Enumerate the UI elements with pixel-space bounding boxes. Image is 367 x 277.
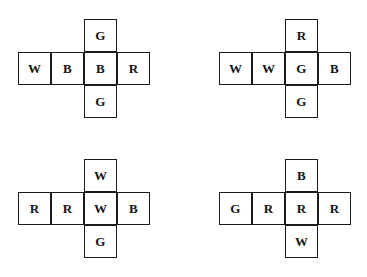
cell-letter: W: [94, 202, 107, 215]
cell-letter: G: [95, 235, 105, 248]
net-bottom-right-row-cell-2: R: [252, 192, 285, 225]
cell-letter: G: [296, 95, 306, 108]
cell-letter: B: [63, 62, 72, 75]
net-top-right-row-cell-3: G: [285, 52, 318, 85]
cell-letter: R: [297, 29, 307, 42]
cell-letter: R: [129, 62, 139, 75]
cell-letter: W: [295, 235, 308, 248]
net-top-right-bottom-cell: G: [285, 85, 318, 118]
net-bottom-right-row-cell-3: R: [285, 192, 318, 225]
cell-letter: G: [296, 62, 306, 75]
net-bottom-right-row-cell-1: G: [219, 192, 252, 225]
net-top-left-top-cell: G: [84, 19, 117, 52]
cell-letter: B: [129, 202, 138, 215]
cell-letter: R: [330, 202, 340, 215]
cell-letter: R: [30, 202, 40, 215]
net-bottom-left-row-cell-4: B: [117, 192, 150, 225]
net-top-left-row-cell-1: W: [18, 52, 51, 85]
net-bottom-right-row-cell-4: R: [318, 192, 351, 225]
net-top-left-row-cell-2: B: [51, 52, 84, 85]
net-bottom-left-top-cell: W: [84, 159, 117, 192]
net-bottom-left-row-cell-3: W: [84, 192, 117, 225]
net-bottom-left-row-cell-1: R: [18, 192, 51, 225]
cell-letter: B: [297, 169, 306, 182]
cell-letter: B: [96, 62, 105, 75]
net-top-left-bottom-cell: G: [84, 85, 117, 118]
cell-letter: W: [28, 62, 41, 75]
cell-letter: W: [262, 62, 275, 75]
net-top-right-row-cell-1: W: [219, 52, 252, 85]
net-top-left-row-cell-4: R: [117, 52, 150, 85]
cell-letter: R: [297, 202, 307, 215]
cube-nets-figure: WBBRGGWWGBRGRRWBWGGRRRBW: [0, 0, 367, 277]
net-top-left-row-cell-3: B: [84, 52, 117, 85]
cell-letter: G: [95, 95, 105, 108]
net-top-right-row-cell-4: B: [318, 52, 351, 85]
cell-letter: B: [330, 62, 339, 75]
net-bottom-left-row-cell-2: R: [51, 192, 84, 225]
net-top-right-row-cell-2: W: [252, 52, 285, 85]
cell-letter: W: [229, 62, 242, 75]
cell-letter: G: [230, 202, 240, 215]
net-bottom-left-bottom-cell: G: [84, 225, 117, 258]
net-bottom-right-top-cell: B: [285, 159, 318, 192]
cell-letter: G: [95, 29, 105, 42]
cell-letter: R: [63, 202, 73, 215]
cell-letter: W: [94, 169, 107, 182]
net-top-right-top-cell: R: [285, 19, 318, 52]
cell-letter: R: [264, 202, 274, 215]
net-bottom-right-bottom-cell: W: [285, 225, 318, 258]
